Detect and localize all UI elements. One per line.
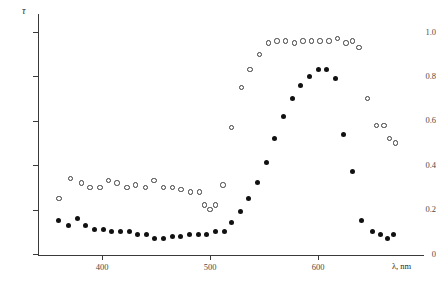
data-point-filled-circles — [290, 96, 295, 101]
data-point-open-circles — [207, 207, 212, 212]
data-point-open-circles — [114, 180, 119, 185]
y-axis-line — [38, 14, 39, 255]
y-tick-label: 0.4 — [410, 161, 436, 170]
data-point-open-circles — [151, 178, 156, 183]
data-point-filled-circles — [66, 223, 71, 228]
data-point-filled-circles — [204, 232, 209, 237]
data-point-filled-circles — [196, 232, 201, 237]
data-point-filled-circles — [307, 74, 312, 79]
x-axis-title: λ, nm — [392, 262, 411, 271]
data-point-open-circles — [300, 38, 305, 43]
data-point-filled-circles — [341, 132, 346, 137]
data-point-open-circles — [309, 38, 314, 43]
data-point-open-circles — [365, 96, 370, 101]
y-tick-mark — [33, 254, 38, 255]
data-point-open-circles — [266, 40, 271, 45]
data-point-open-circles — [292, 40, 297, 45]
data-point-filled-circles — [238, 209, 243, 214]
data-point-open-circles — [343, 40, 348, 45]
data-point-open-circles — [387, 136, 392, 141]
data-point-filled-circles — [229, 220, 234, 225]
x-axis-line — [38, 255, 424, 256]
data-point-filled-circles — [101, 227, 106, 232]
x-tick-mark — [318, 255, 319, 260]
data-point-filled-circles — [135, 232, 140, 237]
data-point-filled-circles — [385, 236, 390, 241]
data-point-filled-circles — [222, 229, 227, 234]
data-point-open-circles — [326, 38, 331, 43]
data-point-open-circles — [220, 182, 225, 187]
data-point-filled-circles — [152, 236, 157, 241]
data-point-filled-circles — [350, 169, 355, 174]
y-tick-label: 1.0 — [410, 28, 436, 37]
data-point-filled-circles — [281, 114, 286, 119]
x-tick-label: 600 — [301, 263, 335, 272]
data-point-open-circles — [68, 176, 73, 181]
scatter-chart-figure: τ λ, nm 00.20.40.60.81.0 400500600 — [0, 0, 436, 286]
x-tick-mark — [102, 255, 103, 260]
data-point-filled-circles — [316, 67, 321, 72]
data-point-filled-circles — [359, 218, 364, 223]
data-point-filled-circles — [118, 229, 123, 234]
data-point-filled-circles — [178, 234, 183, 239]
data-point-open-circles — [350, 38, 355, 43]
y-tick-mark — [33, 121, 38, 122]
data-point-open-circles — [170, 185, 175, 190]
data-point-open-circles — [239, 85, 244, 90]
data-point-filled-circles — [75, 216, 80, 221]
data-point-filled-circles — [324, 67, 329, 72]
data-point-filled-circles — [187, 232, 192, 237]
x-tick-mark — [210, 255, 211, 260]
data-point-filled-circles — [255, 180, 260, 185]
data-point-open-circles — [106, 178, 111, 183]
data-point-open-circles — [56, 196, 61, 201]
data-point-open-circles — [178, 187, 183, 192]
data-point-open-circles — [133, 182, 138, 187]
y-tick-label: 0.6 — [410, 116, 436, 125]
data-point-open-circles — [381, 123, 386, 128]
data-point-filled-circles — [272, 136, 277, 141]
data-point-open-circles — [229, 125, 234, 130]
data-point-open-circles — [213, 202, 218, 207]
x-tick-label: 500 — [193, 263, 227, 272]
y-tick-mark — [33, 210, 38, 211]
data-point-filled-circles — [144, 232, 149, 237]
y-tick-mark — [33, 165, 38, 166]
y-axis-title: τ — [22, 6, 26, 16]
data-point-filled-circles — [170, 234, 175, 239]
data-point-open-circles — [161, 185, 166, 190]
data-point-filled-circles — [378, 232, 383, 237]
data-point-open-circles — [283, 38, 288, 43]
data-point-open-circles — [143, 185, 148, 190]
data-point-filled-circles — [127, 229, 132, 234]
x-tick-label: 400 — [85, 263, 119, 272]
data-point-open-circles — [393, 140, 398, 145]
data-point-filled-circles — [370, 229, 375, 234]
data-point-open-circles — [124, 185, 129, 190]
data-point-open-circles — [374, 123, 379, 128]
data-point-open-circles — [356, 45, 361, 50]
data-point-open-circles — [197, 189, 202, 194]
y-tick-mark — [33, 76, 38, 77]
data-point-filled-circles — [109, 229, 114, 234]
y-tick-mark — [33, 32, 38, 33]
data-point-filled-circles — [333, 76, 338, 81]
data-point-open-circles — [247, 67, 252, 72]
data-point-open-circles — [188, 189, 193, 194]
y-tick-label: 0.8 — [410, 72, 436, 81]
y-tick-label: 0.2 — [410, 205, 436, 214]
data-point-open-circles — [87, 185, 92, 190]
data-point-filled-circles — [264, 160, 269, 165]
data-point-filled-circles — [83, 223, 88, 228]
data-point-filled-circles — [161, 236, 166, 241]
data-point-open-circles — [79, 180, 84, 185]
data-point-filled-circles — [246, 196, 251, 201]
data-point-open-circles — [317, 38, 322, 43]
plot-area: τ λ, nm 00.20.40.60.81.0 400500600 — [0, 0, 436, 286]
data-point-filled-circles — [213, 229, 218, 234]
data-point-open-circles — [274, 38, 279, 43]
data-point-open-circles — [257, 52, 262, 57]
y-tick-label: 0 — [410, 250, 436, 259]
data-point-filled-circles — [56, 218, 61, 223]
data-point-filled-circles — [391, 232, 396, 237]
